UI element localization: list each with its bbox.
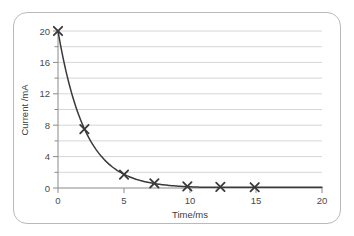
figure-card: 048121620 05101520 Time/ms Current /mA — [13, 12, 341, 224]
x-tick-label: 5 — [121, 195, 126, 206]
x-axis-title: Time/ms — [172, 209, 208, 220]
y-tick-label: 0 — [45, 183, 50, 194]
y-axis-title: Current /mA — [19, 84, 30, 136]
y-tick-label: 12 — [39, 88, 50, 99]
data-point-marker — [120, 170, 128, 178]
y-axis-tick-labels: 048121620 — [39, 26, 50, 194]
x-tick-label: 10 — [185, 195, 196, 206]
y-tick-label: 4 — [45, 151, 50, 162]
y-axis-ticks — [53, 31, 58, 188]
data-point-marker — [80, 125, 88, 133]
y-tick-label: 20 — [39, 26, 50, 37]
y-tick-label: 8 — [45, 120, 50, 131]
x-tick-label: 15 — [251, 195, 262, 206]
x-tick-label: 0 — [55, 195, 60, 206]
x-axis-tick-labels: 05101520 — [55, 195, 327, 206]
x-tick-label: 20 — [317, 195, 328, 206]
current-vs-time-chart: 048121620 05101520 Time/ms Current /mA — [14, 13, 342, 225]
y-tick-label: 16 — [39, 57, 50, 68]
